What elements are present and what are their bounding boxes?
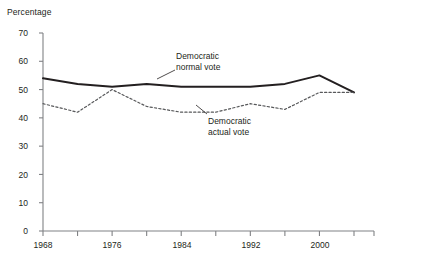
normal-vote-leader-line bbox=[157, 70, 175, 79]
series-line-normal-vote bbox=[43, 75, 354, 92]
plot-area bbox=[0, 0, 433, 260]
actual-vote-leader-line bbox=[196, 105, 207, 114]
series-line-actual-vote bbox=[43, 90, 354, 113]
axes bbox=[39, 33, 374, 236]
annotation-leader-lines bbox=[157, 70, 207, 114]
chart-figure: Percentage 70 60 50 40 30 20 10 0 1968 1… bbox=[0, 0, 433, 260]
